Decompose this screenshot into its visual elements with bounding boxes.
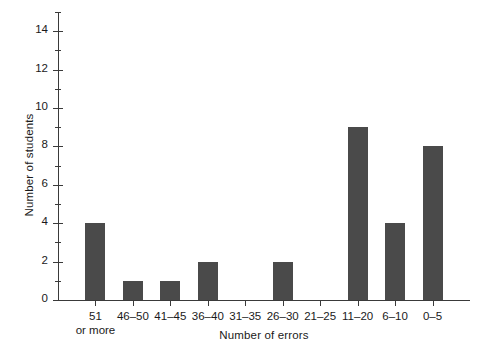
- x-tick-label-line1: 31–35: [229, 310, 261, 322]
- x-tick-label: 51or more: [76, 310, 116, 337]
- bar-chart-figure: Number of students Number of errors 0246…: [0, 0, 480, 356]
- bar: [273, 262, 293, 300]
- y-tick-minor: [55, 204, 61, 205]
- x-axis-line: [58, 300, 470, 301]
- x-tick-label: 31–35: [229, 310, 261, 324]
- y-axis-line: [58, 12, 59, 300]
- x-tick-label: 46–50: [117, 310, 149, 324]
- x-tick-label: 0–5: [423, 310, 442, 324]
- x-tick-label: 6–10: [382, 310, 408, 324]
- x-tick-label-line1: 51: [89, 310, 102, 322]
- y-tick-label: 14: [18, 23, 48, 35]
- x-tick: [283, 300, 284, 306]
- bar: [385, 223, 405, 300]
- y-tick-major: [53, 146, 63, 147]
- y-tick-minor: [55, 12, 61, 13]
- x-tick: [208, 300, 209, 306]
- bar: [423, 146, 443, 300]
- x-tick-label: 21–25: [304, 310, 336, 324]
- x-tick-label-line1: 0–5: [423, 310, 442, 322]
- y-tick-minor: [55, 166, 61, 167]
- y-tick-label: 0: [18, 292, 48, 304]
- y-tick-label: 10: [18, 100, 48, 112]
- bar: [85, 223, 105, 300]
- y-tick-major: [53, 31, 63, 32]
- x-tick-label-line1: 11–20: [342, 310, 373, 322]
- x-tick-label-line1: 26–30: [267, 310, 299, 322]
- x-tick: [95, 300, 96, 306]
- bar: [198, 262, 218, 300]
- y-tick-minor: [55, 50, 61, 51]
- y-tick-label: 12: [18, 62, 48, 74]
- x-tick: [170, 300, 171, 306]
- bar: [160, 281, 180, 300]
- y-tick-major: [53, 223, 63, 224]
- x-tick: [433, 300, 434, 306]
- x-tick: [395, 300, 396, 306]
- x-tick-label: 36–40: [192, 310, 224, 324]
- x-tick-label-line1: 46–50: [117, 310, 149, 322]
- y-tick-minor: [55, 127, 61, 128]
- x-tick: [358, 300, 359, 306]
- y-tick-label: 4: [18, 215, 48, 227]
- y-tick-minor: [55, 281, 61, 282]
- y-tick-major: [53, 300, 63, 301]
- bar: [348, 127, 368, 300]
- y-tick-label: 2: [18, 254, 48, 266]
- y-axis-title: Number of students: [20, 15, 38, 315]
- y-tick-minor: [55, 89, 61, 90]
- x-tick: [245, 300, 246, 306]
- x-tick-label: 11–20: [342, 310, 373, 324]
- y-tick-major: [53, 70, 63, 71]
- x-tick-label: 26–30: [267, 310, 299, 324]
- y-tick-label: 6: [18, 177, 48, 189]
- y-tick-label: 8: [18, 138, 48, 150]
- y-tick-minor: [55, 242, 61, 243]
- y-tick-major: [53, 108, 63, 109]
- x-axis-title: Number of errors: [58, 329, 470, 341]
- plot-area: 02468101214 51or more46–5041–4536–4031–3…: [58, 12, 470, 300]
- x-tick-label-line2: or more: [76, 324, 116, 338]
- y-tick-major: [53, 185, 63, 186]
- x-tick-label-line1: 41–45: [154, 310, 186, 322]
- bar: [123, 281, 143, 300]
- x-tick-label-line1: 6–10: [382, 310, 408, 322]
- x-tick: [320, 300, 321, 306]
- x-tick: [133, 300, 134, 306]
- y-tick-major: [53, 262, 63, 263]
- x-tick-label: 41–45: [154, 310, 186, 324]
- x-tick-label-line1: 36–40: [192, 310, 224, 322]
- x-tick-label-line1: 21–25: [304, 310, 336, 322]
